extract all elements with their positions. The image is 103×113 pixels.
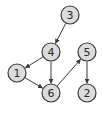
node-2: 2 <box>78 84 96 102</box>
edge-1-to-6 <box>25 78 42 88</box>
node-label: 1 <box>14 67 21 80</box>
node-label: 5 <box>84 46 91 59</box>
node-label: 6 <box>48 87 55 100</box>
edge-4-to-1 <box>25 57 43 68</box>
node-3: 3 <box>61 6 79 24</box>
edge-6-to-5 <box>57 59 80 85</box>
node-6: 6 <box>42 84 60 102</box>
node-1: 1 <box>8 64 26 82</box>
node-label: 3 <box>67 9 74 22</box>
directed-graph: 341652 <box>0 0 103 113</box>
node-label: 4 <box>48 46 55 59</box>
node-5: 5 <box>78 43 96 61</box>
node-4: 4 <box>42 43 60 61</box>
nodes-group: 341652 <box>8 6 96 102</box>
node-label: 2 <box>84 87 91 100</box>
edge-3-to-4 <box>55 23 65 43</box>
